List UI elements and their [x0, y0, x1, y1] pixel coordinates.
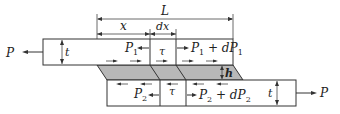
label-tau-bottom: τ [169, 85, 176, 98]
svg-text:P1 + dP1: P1 + dP1 [190, 41, 243, 57]
adhesive-layer [97, 65, 243, 80]
label-x: x [120, 19, 127, 33]
load-P-right: P [296, 86, 329, 100]
dimension-h: h [220, 66, 233, 80]
label-t-bottom: t [268, 87, 273, 100]
label-P-left: P [5, 46, 15, 60]
svg-text:P2 + dP2: P2 + dP2 [198, 88, 251, 104]
load-P-left: P [5, 46, 43, 60]
label-L: L [160, 4, 169, 18]
label-dx: dx [156, 20, 170, 33]
label-P-right: P [319, 86, 329, 100]
label-h: h [225, 67, 233, 80]
label-tau-top: τ [159, 45, 166, 58]
lap-joint-diagram: L x dx P P t t [0, 0, 340, 114]
label-t-top: t [65, 46, 70, 59]
dimension-x-dx: x dx [97, 19, 176, 39]
